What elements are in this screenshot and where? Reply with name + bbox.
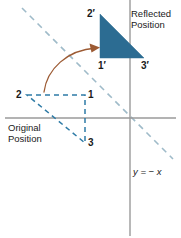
- vertex-label-3-prime: 3′: [141, 60, 149, 72]
- vertex-label-3: 3: [88, 137, 94, 149]
- vertex-label-1-prime: 1′: [98, 60, 106, 72]
- original-position-line-1: Original: [8, 122, 42, 133]
- mirror-line-equation-label: y = − x: [133, 166, 162, 177]
- reflected-position-line-2: Position: [131, 19, 171, 30]
- original-position-line-2: Position: [8, 133, 42, 144]
- figure-canvas: [0, 0, 181, 238]
- reflected-position-caption: Reflected Position: [131, 8, 171, 30]
- vertex-label-1: 1: [88, 89, 94, 101]
- original-position-caption: Original Position: [8, 122, 42, 144]
- reflection-arrow: [44, 48, 96, 92]
- vertex-label-2-prime: 2′: [87, 8, 95, 20]
- vertex-label-2: 2: [16, 89, 22, 101]
- mirror-line-y-equals-minus-x: [22, 8, 173, 159]
- reflection-arrow-head: [90, 44, 101, 53]
- reflection-geometry-figure: 2′ 1′ 3′ 2 1 3 Reflected Position Origin…: [0, 0, 181, 238]
- reflected-position-line-1: Reflected: [131, 8, 171, 19]
